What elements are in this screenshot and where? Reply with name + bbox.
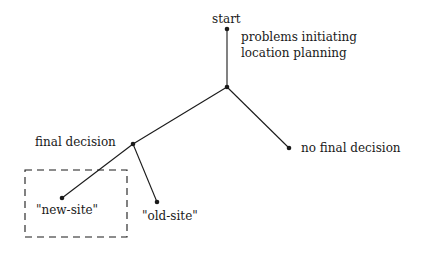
edge-final-decision-old-site: [133, 144, 157, 202]
edge-junction-final-decision: [133, 87, 227, 144]
edge-final-decision-new-site: [62, 144, 133, 198]
node-junction: [225, 85, 230, 90]
node-new-site: [60, 196, 65, 201]
label-start: start: [212, 12, 241, 26]
label-root-note-line2: location planning: [241, 46, 347, 60]
node-no-final-decision: [287, 146, 292, 151]
label-new-site: "new-site": [36, 203, 98, 217]
node-start: [225, 27, 230, 32]
edge-junction-no-final-decision: [227, 87, 289, 148]
label-root-note-line1: problems initiating: [241, 30, 357, 44]
label-old-site: "old-site": [142, 209, 198, 223]
label-no-final-decision: no final decision: [301, 141, 401, 155]
label-final-decision: final decision: [35, 135, 116, 149]
node-final-decision: [131, 142, 136, 147]
node-old-site: [155, 200, 160, 205]
